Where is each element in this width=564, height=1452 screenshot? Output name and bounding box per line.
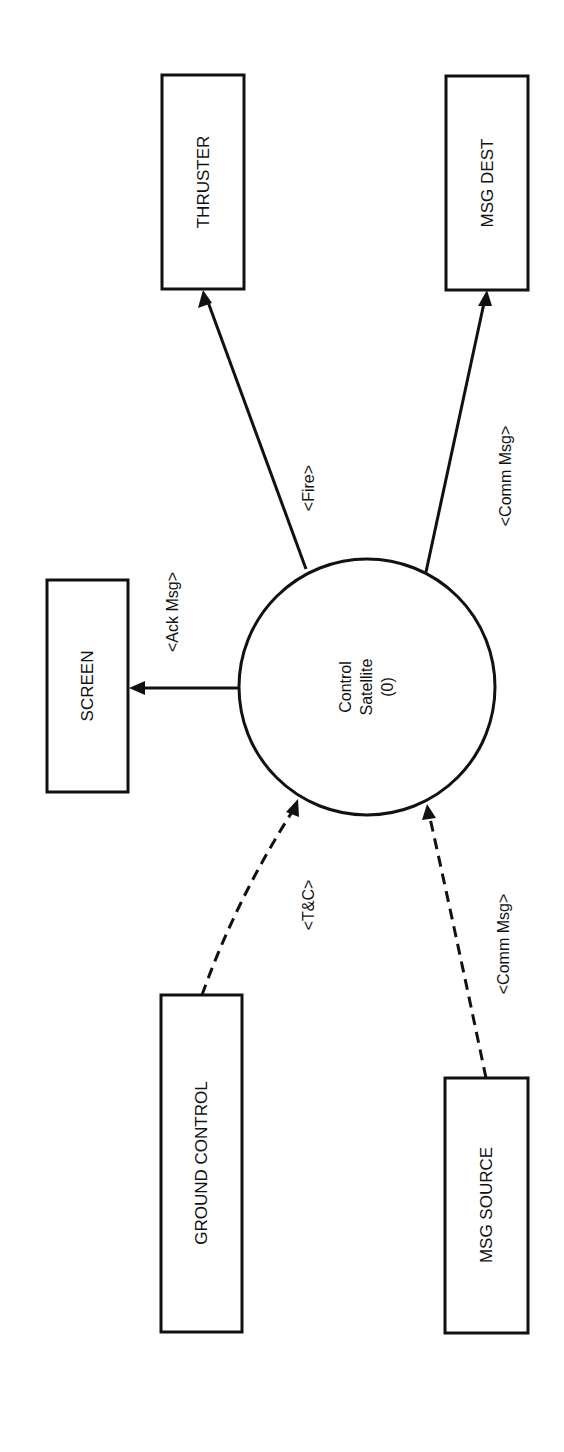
entity-thruster: THRUSTER <box>162 75 244 289</box>
flow-comm-msg-out-label: <Comm Msg> <box>497 426 514 526</box>
arrowhead-icon <box>422 804 436 820</box>
entity-msg-dest: MSG DEST <box>446 76 528 290</box>
entity-ground-control-label: GROUND CONTROL <box>192 1081 211 1244</box>
flow-t-and-c: <T&C> <box>202 799 317 995</box>
flow-comm-msg-out: <Comm Msg> <box>426 290 514 572</box>
flow-comm-msg-in: <Comm Msg> <box>422 804 512 1078</box>
process-label-line1: Control <box>337 661 354 713</box>
flow-ack-msg: <Ack Msg> <box>129 572 239 695</box>
flow-fire-label: <Fire> <box>300 465 317 511</box>
context-diagram: THRUSTER MSG DEST SCREEN GROUND CONTROL … <box>0 0 564 1452</box>
flow-fire: <Fire> <box>198 290 317 569</box>
flow-t-and-c-label: <T&C> <box>300 880 317 931</box>
flow-ack-msg-label: <Ack Msg> <box>164 572 181 652</box>
entity-msg-source-label: MSG SOURCE <box>477 1147 496 1263</box>
process-label-line2: Satellite <box>358 658 375 715</box>
flow-comm-msg-in-label: <Comm Msg> <box>495 894 512 994</box>
process-control-satellite: Control Satellite (0) <box>239 559 495 815</box>
arrowhead-icon <box>129 681 145 695</box>
entity-msg-source: MSG SOURCE <box>445 1078 528 1333</box>
arrowhead-icon <box>478 290 492 306</box>
process-label-line3: (0) <box>379 677 396 697</box>
arrowhead-icon <box>286 799 299 817</box>
entity-screen-label: SCREEN <box>78 651 97 722</box>
entity-msg-dest-label: MSG DEST <box>478 139 497 228</box>
entity-screen: SCREEN <box>47 580 128 792</box>
entity-ground-control: GROUND CONTROL <box>161 995 242 1332</box>
entity-thruster-label: THRUSTER <box>194 136 213 229</box>
